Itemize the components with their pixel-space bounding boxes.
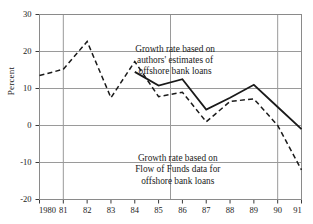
x-tick-label-1989: 89	[244, 205, 264, 215]
annotation-authors-estimates-line-1: authors' estimates of	[135, 55, 215, 66]
y-tick-label-10: 10	[6, 83, 32, 93]
annotation-flow-of-funds: Growth rate based onFlow of Funds data f…	[135, 153, 220, 187]
annotation-authors-estimates-line-2: offshore bank loans	[135, 66, 215, 77]
x-tick-label-1984: 84	[125, 205, 145, 215]
x-tick-label-1988: 88	[220, 205, 240, 215]
annotation-flow-of-funds-line-2: offshore bank loans	[135, 176, 220, 187]
annotation-flow-of-funds-line-1: Flow of Funds data for	[135, 164, 220, 175]
series-line-0	[135, 72, 302, 129]
y-tick-label--20: -20	[6, 194, 32, 204]
y-tick-label-30: 30	[6, 9, 32, 19]
x-tick-label-1983: 83	[101, 205, 121, 215]
x-tick-label-1985: 85	[149, 205, 169, 215]
x-tick-label-1982: 82	[77, 205, 97, 215]
offshore-bank-loans-growth-chart: Percent 3020100-10-20 198081828384858687…	[0, 0, 313, 224]
x-tick-label-1991: 91	[288, 205, 308, 215]
annotation-authors-estimates-line-0: Growth rate based on	[135, 44, 215, 55]
y-tick-label--10: -10	[6, 157, 32, 167]
x-tick-label-1986: 86	[172, 205, 192, 215]
plot-area	[0, 0, 313, 224]
x-tick-label-1987: 87	[196, 205, 216, 215]
y-tick-label-20: 20	[6, 46, 32, 56]
annotation-authors-estimates: Growth rate based onauthors' estimates o…	[135, 44, 215, 78]
x-tick-label-1981: 81	[53, 205, 73, 215]
x-tick-label-1990: 90	[268, 205, 288, 215]
y-tick-label-0: 0	[6, 120, 32, 130]
annotation-flow-of-funds-line-0: Growth rate based on	[135, 153, 220, 164]
